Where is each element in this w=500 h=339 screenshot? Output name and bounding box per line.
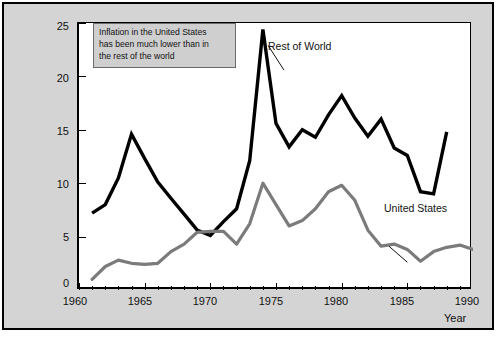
y-major-ticks [79,24,86,291]
series-label-united-states: United States [384,202,447,214]
y-tick-label-20: 20 [43,72,69,84]
x-tick-label-1960: 1960 [55,295,95,307]
x-tick-label-1965: 1965 [120,295,160,307]
line-united-states [92,183,473,279]
callout-annotation: Inflation in the United States has been … [93,23,236,68]
x-axis-title: Year [444,312,466,324]
callout-line-2: has been much lower than in [99,39,230,51]
x-tick-label-1985: 1985 [382,295,422,307]
chart-figure: Inflation rate (percent per year) 25 20 … [0,0,500,339]
figure-panel: Inflation rate (percent per year) 25 20 … [2,2,494,330]
y-tick-label-5: 5 [43,231,69,243]
x-tick-label-1990: 1990 [447,295,487,307]
y-tick-label-15: 15 [43,125,69,137]
x-minor-ticks [80,283,474,290]
callout-line-3: the rest of the world [99,51,230,63]
y-tick-label-25: 25 [43,20,69,32]
callout-line-1: Inflation in the United States [99,27,230,39]
x-tick-label-1980: 1980 [316,295,356,307]
y-tick-label-0: 0 [43,277,69,289]
series-label-rest-of-world: Rest of World [268,40,331,52]
y-tick-label-10: 10 [43,178,69,190]
x-tick-label-1970: 1970 [185,295,225,307]
x-tick-label-1975: 1975 [251,295,291,307]
